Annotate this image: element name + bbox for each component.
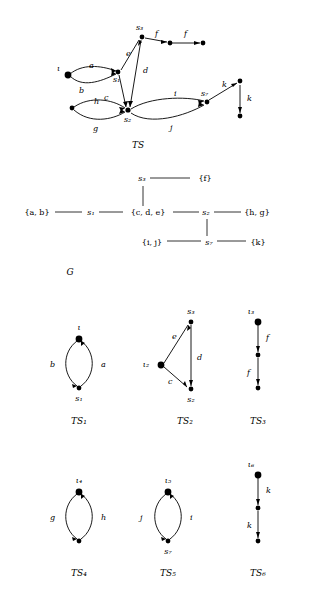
ts3-diagram: ι₃ f f TS₃ [246, 307, 271, 426]
g-node-f-set: {f} [198, 174, 211, 183]
ts4-arrowhead-g [72, 537, 77, 541]
ts1-event-a: a [101, 360, 106, 369]
edge-g [74, 110, 125, 119]
g-diagram: s₃ {f} {a, b} s₁ {c, d, e} s₂ {h, g} {i,… [24, 174, 269, 277]
ts-event-k-2: k [247, 94, 252, 103]
ts-event-e: e [126, 49, 131, 58]
ts3-state-end [256, 386, 261, 391]
figure-canvas: s₃ s₁ s₂ s₇ ι a b c d e f f h g i j k k … [0, 0, 314, 611]
ts1-event-b: b [50, 360, 55, 369]
ts-event-b: b [79, 86, 84, 95]
ts2-arrowhead-d [189, 380, 193, 386]
g-node-s7: s₇ [205, 238, 213, 247]
edge-b [70, 74, 116, 83]
ts-event-g: g [93, 124, 98, 133]
ts1-label-iota: ι [77, 323, 80, 332]
ts4-edge-g [66, 494, 77, 539]
ts3-arrowhead-f2 [256, 379, 260, 385]
caption-g: G [66, 267, 73, 277]
ts2-state-s3 [189, 320, 194, 325]
ts2-label-s2: s₂ [187, 395, 194, 404]
ts5-diagram: ι₅ s₇ j i TS₅ [138, 476, 193, 578]
figure-page: s₃ s₁ s₂ s₇ ι a b c d e f f h g i j k k … [0, 0, 314, 611]
caption-ts: TS [132, 140, 144, 150]
caption-ts1: TS₁ [71, 416, 87, 426]
ts2-state-s2 [189, 387, 194, 392]
ts2-state-iota2 [158, 362, 165, 369]
ts-event-h: h [94, 97, 99, 106]
ts4-state-end [77, 539, 82, 544]
ts2-arrowhead-c [183, 381, 187, 387]
ts2-edge-e [164, 325, 188, 363]
ts-event-j: j [168, 123, 173, 132]
ts6-state-mid [256, 506, 261, 511]
g-node-ab-set: {a, b} [24, 208, 49, 217]
ts-state-s1 [116, 70, 121, 75]
ts5-label-s7: s₇ [164, 547, 172, 556]
ts5-state-iota5 [165, 489, 172, 496]
arrowhead-f2 [194, 41, 200, 45]
ts-event-i: i [174, 89, 177, 98]
ts1-edge-b [66, 341, 77, 386]
ts2-label-iota2: ι₂ [143, 360, 149, 369]
ts2-event-c: c [168, 377, 173, 386]
arrowhead-f1 [161, 40, 167, 44]
ts-event-a: a [89, 61, 94, 70]
ts5-state-s7 [166, 539, 171, 544]
ts-event-d: d [143, 66, 148, 75]
ts-state-s2 [125, 107, 130, 112]
edge-i [131, 98, 204, 109]
ts-label-s7: s₇ [201, 89, 209, 98]
ts6-state-end [256, 539, 261, 544]
ts5-edge-i [170, 494, 181, 539]
ts6-arrowhead-k2 [256, 532, 260, 538]
ts4-edge-h [81, 494, 92, 539]
g-node-hg-set: {h, g} [244, 208, 270, 217]
ts-state-k1 [238, 79, 243, 84]
ts-event-f-2: f [183, 29, 189, 38]
ts-label-s1: s₁ [113, 75, 120, 84]
edge-j [131, 105, 204, 119]
ts1-arrowhead-b [72, 384, 77, 388]
ts5-label-iota5: ι₅ [165, 476, 172, 485]
ts6-event-k-2: k [247, 521, 252, 530]
ts-state-s7 [205, 100, 210, 105]
ts1-state-iota [76, 336, 83, 343]
ts4-label-iota4: ι₄ [76, 476, 82, 485]
ts3-state-iota3 [255, 319, 262, 326]
g-node-s1: s₁ [87, 208, 94, 217]
ts4-event-g: g [50, 513, 55, 522]
ts1-label-s1: s₁ [75, 394, 82, 403]
ts4-state-iota4 [76, 489, 83, 496]
ts6-arrowhead-k1 [256, 499, 260, 505]
ts-event-iota: ι [57, 64, 60, 73]
ts-event-c: c [104, 93, 109, 102]
ts-state-init [65, 72, 72, 79]
g-node-ij-set: {i, j} [142, 238, 162, 247]
ts6-event-k-1: k [266, 486, 271, 495]
ts-label-s2: s₂ [124, 115, 131, 124]
ts2-diagram: s₃ ι₂ s₂ e d c TS₂ [143, 307, 202, 426]
ts5-event-j: j [138, 513, 143, 522]
caption-ts2: TS₂ [177, 416, 193, 426]
caption-ts3: TS₃ [250, 416, 266, 426]
ts1-edge-a [81, 341, 92, 386]
ts2-event-d: d [197, 353, 202, 362]
ts3-event-f-1: f [265, 333, 271, 342]
ts6-diagram: ι₆ k k TS₆ [247, 460, 271, 578]
ts5-event-i: i [190, 513, 193, 522]
ts4-diagram: ι₄ g h TS₄ [50, 476, 106, 578]
ts-state-f2 [201, 41, 206, 46]
arrowhead-k2 [238, 107, 242, 113]
g-node-s3: s₃ [138, 174, 145, 183]
ts-state-h1 [70, 106, 75, 111]
ts1-state-s1 [77, 386, 82, 391]
arrowhead-c [123, 101, 128, 107]
ts-event-f-1: f [154, 29, 160, 38]
edge-d [130, 40, 141, 107]
ts3-arrowhead-f1 [256, 346, 260, 352]
ts-state-s3 [140, 35, 145, 40]
ts6-state-iota6 [255, 472, 262, 479]
ts-diagram: s₃ s₁ s₂ s₇ ι a b c d e f f h g i j k k … [57, 23, 252, 150]
caption-ts4: TS₄ [71, 568, 87, 578]
